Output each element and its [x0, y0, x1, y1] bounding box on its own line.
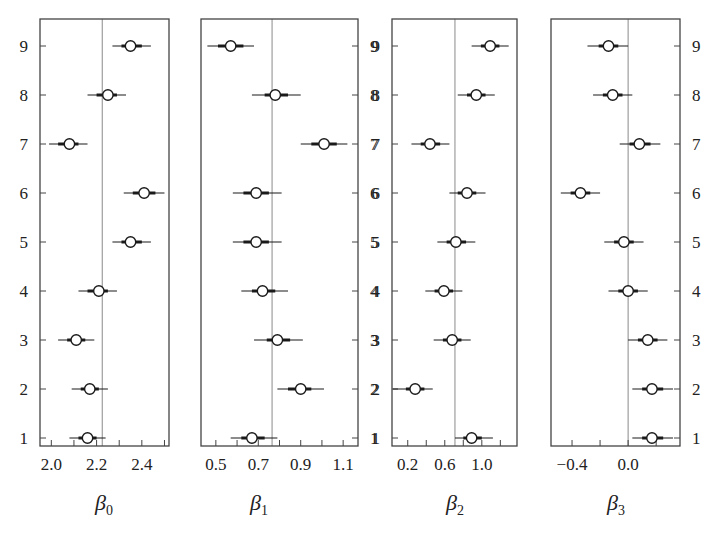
x-axis-label: β1: [249, 490, 268, 518]
x-tick-label: 0.9: [290, 455, 311, 474]
data-point-group-5: [604, 237, 643, 247]
data-point-group-7: [411, 139, 449, 149]
y-tick-label: 6: [20, 184, 29, 203]
estimate-marker: [296, 384, 306, 394]
y-tick-label: 6: [372, 184, 381, 203]
y-tick-label: 4: [20, 282, 29, 301]
data-point-group-4: [608, 286, 647, 296]
data-point-group-9: [112, 41, 150, 51]
data-point-group-7: [620, 139, 661, 149]
y-tick-label: 7: [372, 135, 381, 154]
estimate-marker: [85, 384, 95, 394]
estimate-marker: [647, 433, 657, 443]
estimate-marker: [82, 433, 92, 443]
y-tick-label: 6: [692, 184, 701, 203]
estimate-marker: [64, 139, 74, 149]
estimate-marker: [410, 384, 420, 394]
estimate-marker: [466, 433, 476, 443]
panel-frame: [201, 19, 358, 446]
estimate-marker: [425, 139, 435, 149]
x-tick-label: 0.5: [205, 455, 226, 474]
y-tick-label: 4: [372, 282, 381, 301]
y-tick-label: 4: [692, 282, 701, 301]
data-point-group-1: [231, 433, 278, 443]
data-point-group-5: [233, 237, 282, 247]
data-point-group-5: [112, 237, 150, 247]
data-point-group-6: [233, 188, 282, 198]
estimate-marker: [603, 41, 613, 51]
y-tick-label: 5: [692, 233, 701, 252]
data-point-group-9: [587, 41, 628, 51]
estimate-marker: [272, 335, 282, 345]
y-tick-label: 2: [372, 380, 381, 399]
y-tick-label: 8: [692, 86, 701, 105]
data-point-group-2: [277, 384, 324, 394]
x-tick-label: 2.2: [86, 455, 107, 474]
data-point-group-8: [458, 90, 495, 100]
x-tick-label: 2.4: [131, 455, 153, 474]
x-tick-label: 0.6: [434, 455, 455, 474]
x-axis-label: β2: [445, 490, 464, 518]
estimate-marker: [251, 188, 261, 198]
data-point-group-7: [301, 139, 348, 149]
panel-beta2: 0.20.61.0β2123456789: [372, 19, 518, 518]
panel-beta3: −0.40.0β3123456789: [551, 19, 701, 518]
estimate-marker: [257, 286, 267, 296]
y-tick-label: 1: [372, 429, 381, 448]
x-tick-label: 2.0: [41, 455, 62, 474]
data-point-group-3: [628, 335, 667, 345]
estimate-marker: [623, 286, 633, 296]
data-point-group-1: [69, 433, 105, 443]
estimate-marker: [485, 41, 495, 51]
data-point-group-9: [207, 41, 254, 51]
data-point-group-2: [632, 384, 673, 394]
estimate-marker: [139, 188, 149, 198]
y-tick-label: 7: [692, 135, 701, 154]
panel-frame: [551, 19, 680, 446]
estimate-marker: [94, 286, 104, 296]
estimate-marker: [125, 41, 135, 51]
estimate-marker: [619, 237, 629, 247]
estimate-marker: [247, 433, 257, 443]
estimate-marker: [270, 90, 280, 100]
x-tick-label: 1.0: [471, 455, 492, 474]
y-tick-label: 1: [20, 429, 29, 448]
x-tick-label: 0.0: [617, 455, 638, 474]
data-point-group-9: [472, 41, 509, 51]
data-point-group-1: [455, 433, 493, 443]
estimate-marker: [103, 90, 113, 100]
y-tick-label: 8: [20, 86, 29, 105]
panel-beta1: 0.50.70.91.1β1123456789: [201, 19, 379, 518]
y-tick-label: 1: [692, 429, 701, 448]
y-tick-label: 2: [20, 380, 29, 399]
data-point-group-2: [393, 384, 433, 394]
y-tick-label: 9: [692, 37, 701, 56]
y-tick-label: 2: [692, 380, 701, 399]
y-tick-label: 5: [372, 233, 381, 252]
data-point-group-5: [437, 237, 475, 247]
y-tick-label: 3: [20, 331, 29, 350]
estimate-marker: [125, 237, 135, 247]
estimate-marker: [647, 384, 657, 394]
y-tick-label: 7: [20, 135, 29, 154]
y-tick-label: 5: [20, 233, 29, 252]
estimate-marker: [634, 139, 644, 149]
x-tick-label: −0.4: [557, 455, 588, 474]
x-tick-label: 0.2: [397, 455, 418, 474]
data-point-group-6: [124, 188, 165, 198]
y-tick-label: 8: [372, 86, 381, 105]
y-tick-label: 9: [20, 37, 29, 56]
estimate-marker: [462, 188, 472, 198]
estimate-marker: [226, 41, 236, 51]
data-point-group-3: [58, 335, 94, 345]
estimate-marker: [643, 335, 653, 345]
panel-beta0: 2.02.22.4β0123456789: [20, 19, 170, 518]
data-point-group-4: [241, 286, 288, 296]
estimate-marker: [447, 335, 457, 345]
data-point-group-4: [78, 286, 116, 296]
data-point-group-4: [425, 286, 462, 296]
chart-canvas: 2.02.22.4β01234567890.50.70.91.1β1123456…: [0, 0, 711, 546]
estimate-marker: [451, 237, 461, 247]
data-point-group-8: [88, 90, 126, 100]
x-tick-label: 1.1: [333, 455, 354, 474]
